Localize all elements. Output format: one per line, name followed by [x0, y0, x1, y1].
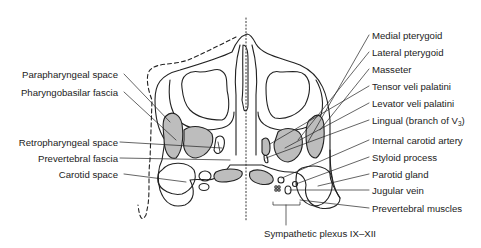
label-internal-carotid-artery: Internal carotid artery [372, 136, 463, 146]
label-carotid-space: Carotid space [59, 170, 118, 180]
label-sympathetic-plexus: Sympathetic plexus IX–XII [264, 229, 376, 239]
label-levator-veli-palatini: Levator veli palatini [372, 99, 454, 109]
right-maxillary-sinus [266, 72, 310, 119]
label-parotid-gland: Parotid gland [372, 170, 429, 180]
label-prevertebral-muscles: Prevertebral muscles [372, 204, 462, 214]
lingual-text: Lingual (branch of V [372, 115, 458, 126]
label-lateral-pterygoid: Lateral pterygoid [372, 48, 443, 58]
label-pharyngobasilar-fascia: Pharyngobasilar fascia [21, 88, 118, 98]
label-prevertebral-fascia: Prevertebral fascia [38, 154, 118, 164]
left-maxillary-sinus [182, 69, 229, 120]
right-prevertebral-muscle [249, 170, 273, 185]
left-prevertebral-muscle [214, 169, 242, 182]
label-retropharyngeal-space: Retropharyngeal space [19, 138, 118, 148]
label-masseter: Masseter [372, 65, 411, 75]
label-medial-pterygoid: Medial pterygoid [372, 31, 442, 41]
label-tensor-veli-palatini: Tensor veli palatini [372, 82, 451, 92]
left-medial-pterygoid [163, 113, 183, 158]
label-parapharyngeal-space: Parapharyngeal space [22, 70, 118, 80]
left-lateral-pterygoid [184, 127, 213, 158]
label-jugular-vein: Jugular vein [372, 186, 424, 196]
label-lingual-nerve: Lingual (branch of V3) [372, 116, 465, 128]
label-styloid-process: Styloid process [372, 153, 437, 163]
lingual-suffix: ) [462, 115, 465, 126]
